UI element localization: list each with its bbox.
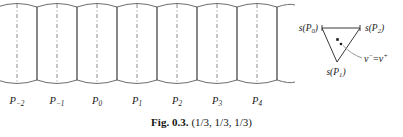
figure-container: P−2 P−1 P0 P1 P2 P3 P4 s(P0) s(P2) [0, 0, 403, 137]
tube-bottom-arc-left-partial [0, 80, 37, 84]
tube-center-axes [17, 4, 257, 83]
tube-axis-label-p-4: P4 [251, 95, 262, 108]
nu-plus-point [340, 43, 343, 46]
tube-axis-label-sub: 2 [178, 100, 182, 108]
tube-axis-labels: P−2 P−1 P0 P1 P2 P3 P4 [9, 95, 263, 108]
figure-caption-value: (1/3, 1/3, 1/3) [191, 116, 252, 128]
triangle-vertex-label-s-p1: s(P1) [326, 67, 345, 78]
tube-axis-label-sub: 1 [138, 100, 142, 108]
tube-bottom-arc-right-partial [277, 80, 295, 83]
triangle-diagram-group: s(P0) s(P2) s(P1) ν−=ν+ [299, 23, 388, 78]
tube-axis-label-p-1: P1 [131, 95, 142, 108]
tube-axis-label-p-minus-2: P−2 [9, 95, 25, 108]
nu-minus-point [336, 38, 339, 41]
tube-axis-label-sub: 4 [258, 100, 262, 108]
triangle-vertex-label-s-p0: s(P0) [299, 23, 318, 34]
nu-plus-superscript: + [383, 52, 388, 59]
tube-top-arc-right-partial [277, 4, 295, 7]
tube-axis-label-p-3: P3 [211, 95, 222, 108]
tube-axis-label-p-0: P0 [91, 95, 102, 108]
nu-leader-line [343, 46, 362, 59]
figure-caption-number: Fig. 0.3. [151, 116, 188, 128]
tube-axis-label-sub: −1 [56, 100, 64, 108]
tube-chain-group: P−2 P−1 P0 P1 P2 P3 P4 [0, 4, 295, 109]
nu-equality-annotation: ν−=ν+ [364, 52, 388, 64]
tube-solid-boundaries [37, 7, 277, 80]
tube-top-arc-left-partial [0, 4, 37, 8]
tube-axis-label-sub: 3 [217, 100, 222, 108]
figure-caption: Fig. 0.3.(1/3, 1/3, 1/3) [0, 116, 403, 128]
tube-axis-label-sub: −2 [16, 100, 25, 108]
tube-axis-label-p-2: P2 [171, 95, 182, 108]
tube-bottom-arcs [0, 80, 295, 84]
triangle-vertex-label-s-p2: s(P2) [365, 23, 384, 34]
tube-top-arcs [0, 4, 295, 8]
tube-axis-label-sub: 0 [98, 100, 102, 108]
tube-axis-label-p-minus-1: P−1 [49, 95, 65, 108]
